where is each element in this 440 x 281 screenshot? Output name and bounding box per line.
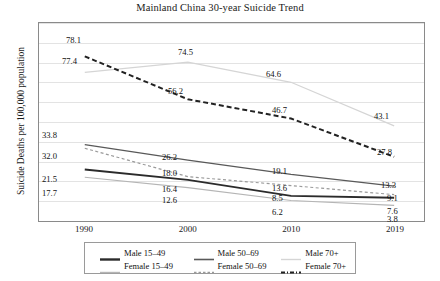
series-line [85, 62, 394, 126]
legend-item[interactable]: Male 70+ [281, 248, 350, 258]
legend-item[interactable]: Female 15–49 [90, 261, 194, 271]
y-axis-label: Suicide Deaths per 100,000 population [16, 21, 26, 221]
legend-label: Female 50–69 [218, 261, 267, 271]
legend-label: Female 15–49 [124, 261, 173, 271]
legend-item[interactable]: Female 70+ [281, 261, 350, 271]
legend-swatch-icon [100, 249, 120, 256]
legend-label: Male 50–69 [218, 248, 259, 258]
legend-item[interactable]: Male 50–69 [194, 248, 282, 258]
data-label: 3.8 [387, 215, 398, 224]
series-lines [39, 23, 424, 221]
legend-item[interactable]: Male 15–49 [90, 248, 194, 258]
gridline [39, 221, 424, 222]
legend-swatch-icon [194, 249, 214, 256]
chart-title: Mainland China 30-year Suicide Trend [0, 2, 440, 13]
legend-swatch-icon [281, 262, 301, 269]
data-label: 13.3 [381, 181, 396, 190]
data-label: 6.2 [272, 208, 283, 217]
x-tick-label: 2019 [372, 224, 418, 234]
data-label: 21.5 [42, 175, 57, 184]
legend-row: Female 15–49Female 50–69Female 70+ [90, 259, 350, 272]
legend-swatch-icon [281, 249, 301, 256]
data-label: 64.6 [266, 70, 281, 79]
legend-label: Male 15–49 [124, 248, 165, 258]
data-label: 19.1 [272, 167, 287, 176]
legend-label: Female 70+ [305, 261, 346, 271]
legend-swatch-icon [194, 262, 214, 269]
data-label: 12.6 [162, 196, 177, 205]
legend-item[interactable]: Female 50–69 [194, 261, 282, 271]
data-label: 32.0 [42, 152, 57, 161]
data-label: 17.7 [42, 189, 57, 198]
x-tick-label: 2000 [165, 224, 211, 234]
x-tick-label: 2010 [268, 224, 314, 234]
data-label: 78.1 [66, 36, 81, 45]
data-label: 9.1 [387, 194, 398, 203]
data-label: 33.8 [42, 131, 57, 140]
data-label: 74.5 [178, 48, 193, 57]
data-label: 18.0 [162, 169, 177, 178]
data-label: 26.2 [162, 153, 177, 162]
data-label: 16.4 [162, 185, 177, 194]
data-label: 77.4 [62, 57, 77, 66]
data-label: 56.2 [168, 87, 183, 96]
plot-area [38, 22, 425, 222]
x-tick-label: 1990 [61, 224, 107, 234]
data-label: 46.7 [272, 106, 287, 115]
legend-swatch-icon [100, 262, 120, 269]
chart-container: Mainland China 30-year Suicide Trend Sui… [0, 0, 440, 281]
data-label: 27.8 [377, 148, 392, 157]
data-label: 13.6 [272, 184, 287, 193]
legend: Male 15–49Male 50–69Male 70+Female 15–49… [84, 242, 356, 274]
legend-label: Male 70+ [305, 248, 338, 258]
legend-row: Male 15–49Male 50–69Male 70+ [90, 246, 350, 259]
data-label: 8.5 [272, 194, 283, 203]
series-line [85, 145, 394, 187]
data-label: 43.1 [374, 112, 389, 121]
